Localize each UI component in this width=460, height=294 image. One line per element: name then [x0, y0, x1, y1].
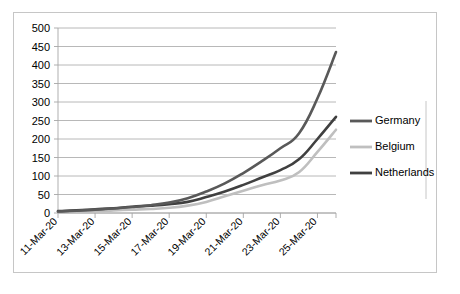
series-line-netherlands	[58, 117, 336, 211]
series-line-germany	[58, 52, 336, 211]
y-tick-label: 150	[32, 152, 50, 164]
x-tick-label: 13-Mar-20	[54, 215, 97, 258]
data-series	[58, 52, 336, 212]
y-tick-label: 300	[32, 96, 50, 108]
y-tick-label: 450	[32, 41, 50, 53]
y-axis-tick-labels: 050100150200250300350400450500	[32, 22, 50, 219]
y-tick-label: 200	[32, 133, 50, 145]
x-tick-label: 15-Mar-20	[91, 215, 134, 258]
y-tick-label: 100	[32, 170, 50, 182]
y-tick-label: 50	[38, 189, 50, 201]
x-tick-label: 17-Mar-20	[128, 215, 171, 258]
y-tick-label: 400	[32, 59, 50, 71]
x-tick-label: 23-Mar-20	[239, 215, 282, 258]
y-axis	[54, 28, 58, 213]
gridlines	[58, 28, 336, 213]
line-chart: 050100150200250300350400450500 11-Mar-20…	[14, 13, 436, 272]
x-tick-label: 21-Mar-20	[202, 215, 245, 258]
chart-frame: 050100150200250300350400450500 11-Mar-20…	[13, 12, 437, 273]
y-tick-label: 350	[32, 78, 50, 90]
x-tick-label: 11-Mar-20	[17, 215, 59, 257]
y-tick-label: 250	[32, 115, 50, 127]
x-tick-label: 25-Mar-20	[276, 215, 319, 258]
legend-label-netherlands: Netherlands	[375, 166, 435, 178]
legend-label-germany: Germany	[375, 114, 421, 126]
chart-legend: GermanyBelgiumNetherlands	[350, 101, 435, 199]
y-tick-label: 500	[32, 22, 50, 34]
x-axis-tick-labels: 11-Mar-2013-Mar-2015-Mar-2017-Mar-2019-M…	[17, 215, 319, 258]
x-tick-label: 19-Mar-20	[165, 215, 208, 258]
legend-label-belgium: Belgium	[375, 140, 415, 152]
